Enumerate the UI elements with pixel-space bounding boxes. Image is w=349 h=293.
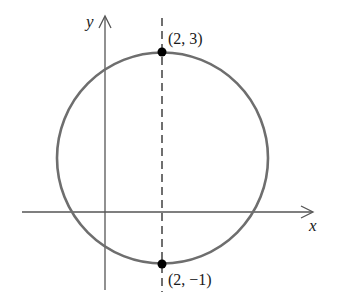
y-axis-label: y bbox=[84, 12, 94, 31]
point-top-label: (2, 3) bbox=[168, 30, 203, 48]
x-axis-label: x bbox=[308, 216, 317, 235]
x-axis bbox=[22, 206, 313, 218]
circle-diagram: y x (2, 3) (2, −1) bbox=[0, 0, 349, 293]
point-bottom bbox=[158, 260, 167, 269]
point-top bbox=[158, 48, 167, 57]
point-bottom-label: (2, −1) bbox=[168, 271, 212, 289]
